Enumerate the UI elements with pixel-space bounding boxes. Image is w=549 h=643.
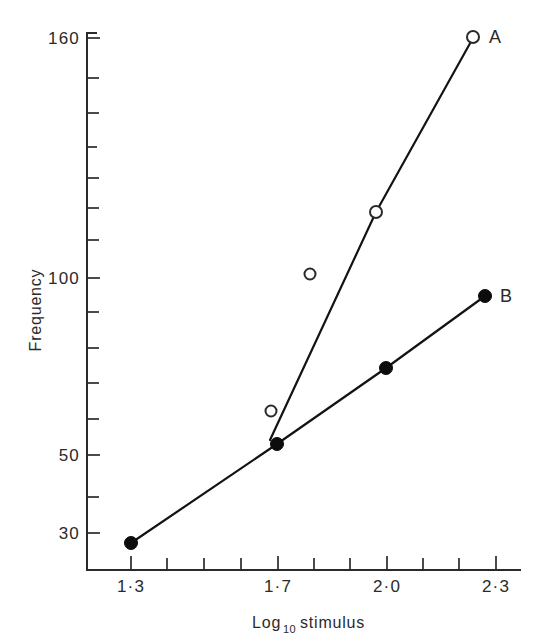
data-point-b (479, 290, 492, 303)
x-axis-title-rest: stimulus (300, 614, 365, 631)
y-axis-ticks (87, 38, 100, 533)
x-axis-ticks (131, 556, 496, 570)
data-point-b (125, 537, 138, 550)
series-a-markers (266, 31, 480, 417)
y-tick-label: 160 (48, 29, 80, 48)
x-tick-label: 1·3 (117, 577, 145, 596)
x-axis-title-base: Log (252, 614, 281, 631)
y-tick-label: 30 (59, 524, 80, 543)
axes-group (87, 33, 520, 570)
x-axis-title-subscript: 10 (283, 623, 296, 635)
data-point-b (380, 362, 393, 375)
series-label-a: A (489, 27, 502, 47)
y-axis-title: Frequency (27, 269, 44, 352)
data-point-a (305, 269, 316, 280)
y-tick-label: 50 (59, 446, 80, 465)
figure-container: 160 100 50 30 1·3 1·7 2·0 2·3 Frequency … (0, 0, 549, 643)
series-label-b: B (500, 286, 513, 306)
x-axis-tick-labels: 1·3 1·7 2·0 2·3 (117, 577, 510, 596)
data-point-b (271, 438, 284, 451)
x-tick-label: 1·7 (264, 577, 292, 596)
x-tick-label: 2·0 (373, 577, 401, 596)
x-tick-label: 2·3 (482, 577, 510, 596)
scatter-plot: 160 100 50 30 1·3 1·7 2·0 2·3 Frequency … (0, 0, 549, 643)
series-b-line (131, 296, 485, 543)
y-axis-tick-labels: 160 100 50 30 (48, 29, 80, 543)
y-tick-label: 100 (48, 269, 80, 288)
data-point-a (370, 206, 382, 218)
data-point-a (467, 31, 479, 43)
series-a-line (270, 38, 473, 440)
data-point-a (266, 406, 277, 417)
x-axis-title: Log 10 stimulus (252, 614, 365, 635)
